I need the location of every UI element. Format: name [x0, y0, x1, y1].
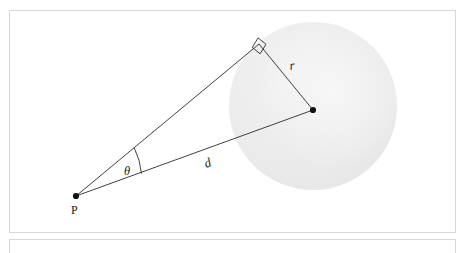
point-p-label: P	[71, 203, 78, 217]
theta-angle-label: θ	[124, 164, 130, 178]
circle-center-dot	[310, 107, 316, 113]
point-p-dot	[73, 193, 79, 199]
sphere-highlight	[229, 22, 397, 190]
theta-angle-arc	[134, 148, 141, 174]
distance-label: d	[202, 154, 214, 170]
